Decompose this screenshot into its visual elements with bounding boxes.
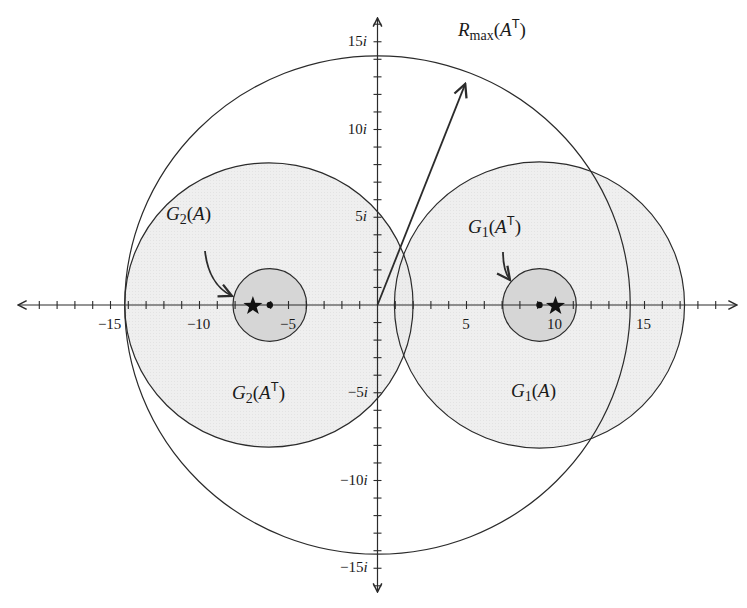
gershgorin-diagram bbox=[0, 0, 747, 608]
y-tick-label: 5i bbox=[355, 209, 367, 224]
y-tick-label: −5i bbox=[348, 385, 368, 400]
label-rmax: Rmax(AT) bbox=[458, 20, 526, 39]
y-tick-label: 15i bbox=[348, 34, 367, 49]
label-g2at: G2(AT) bbox=[232, 383, 285, 402]
label-g2a: G2(A) bbox=[166, 204, 211, 223]
label-g1at: G1(AT) bbox=[468, 217, 521, 236]
x-tick-label: 5 bbox=[462, 317, 470, 332]
y-tick-label: −10i bbox=[340, 473, 368, 488]
y-tick-label: 10i bbox=[348, 122, 367, 137]
x-tick-label: 10 bbox=[547, 317, 562, 332]
diagonal-entry-dot bbox=[267, 302, 273, 308]
complex-plane-axes bbox=[18, 18, 737, 592]
x-tick-label: −15 bbox=[98, 317, 121, 332]
label-g1a: G1(A) bbox=[511, 381, 556, 400]
x-tick-label: −10 bbox=[187, 317, 210, 332]
diagonal-entry-dot bbox=[536, 302, 542, 308]
x-tick-label: −5 bbox=[280, 317, 296, 332]
x-tick-label: 15 bbox=[636, 317, 651, 332]
y-tick-label: −15i bbox=[340, 560, 368, 575]
